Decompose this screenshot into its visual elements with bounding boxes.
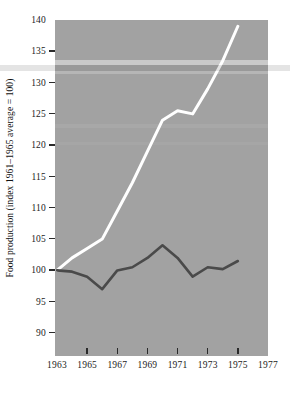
x-axis-tick-mark (177, 348, 178, 354)
x-axis-tick-1977: 1977 (248, 356, 288, 370)
y-axis-tick-mark (49, 176, 55, 177)
y-axis-tick-label: 105 (31, 233, 46, 245)
y-axis-tick-mark (49, 207, 55, 208)
y-axis-tick-label: 130 (31, 77, 46, 89)
x-axis-tick-label: 1977 (248, 356, 288, 370)
y-axis-tick-mark (49, 144, 55, 145)
y-axis-tick-mark (49, 269, 55, 270)
y-axis-tick-mark (49, 301, 55, 302)
y-axis-tick-mark (49, 113, 55, 114)
y-axis-tick-label: 95 (36, 296, 46, 308)
x-axis-tick-mark (86, 348, 87, 354)
y-axis-tick-label: 140 (31, 14, 46, 26)
y-axis-tick-mark (49, 332, 55, 333)
y-axis-tick-mark (49, 50, 55, 51)
y-axis-tick-label: 135 (31, 45, 46, 57)
x-axis-tick-mark (207, 348, 208, 354)
x-axis-tick-mark (147, 348, 148, 354)
line-total-food-production (57, 26, 238, 270)
x-axis-tick-mark (117, 348, 118, 354)
y-axis-tick-mark (49, 82, 55, 83)
y-axis-tick-label: 120 (31, 139, 46, 151)
y-axis-tick-label: 125 (31, 108, 46, 120)
y-axis: 1401351301251201151101051009590 (0, 0, 55, 400)
y-axis-tick-label: 100 (31, 264, 46, 276)
y-axis-tick-label: 110 (32, 202, 47, 214)
x-axis: 19631965196719691971197319751977 (0, 356, 290, 386)
chart-figure: Food production (index 1961–1965 average… (0, 0, 290, 400)
series-lines (55, 20, 268, 356)
plot-area (55, 20, 268, 356)
y-axis-tick-label: 90 (36, 327, 46, 339)
y-axis-tick-mark (49, 238, 55, 239)
x-axis-tick-mark (237, 348, 238, 354)
y-axis-tick-label: 115 (32, 171, 47, 183)
